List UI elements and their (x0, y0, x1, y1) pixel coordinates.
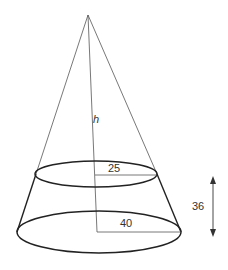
right-frustum-side (157, 174, 181, 232)
left-slant-upper (36, 15, 88, 174)
height-label: h (93, 113, 99, 125)
frustum-height-label: 36 (192, 200, 204, 212)
top-ellipse (35, 161, 157, 187)
right-slant-upper (88, 15, 157, 174)
arrow-down-icon (210, 229, 216, 237)
cone-frustum-diagram: h 25 40 36 (0, 0, 228, 270)
arrow-up-icon (210, 176, 216, 184)
bottom-radius-label: 40 (120, 217, 132, 229)
left-frustum-side (17, 174, 36, 232)
top-radius-label: 25 (108, 162, 120, 174)
